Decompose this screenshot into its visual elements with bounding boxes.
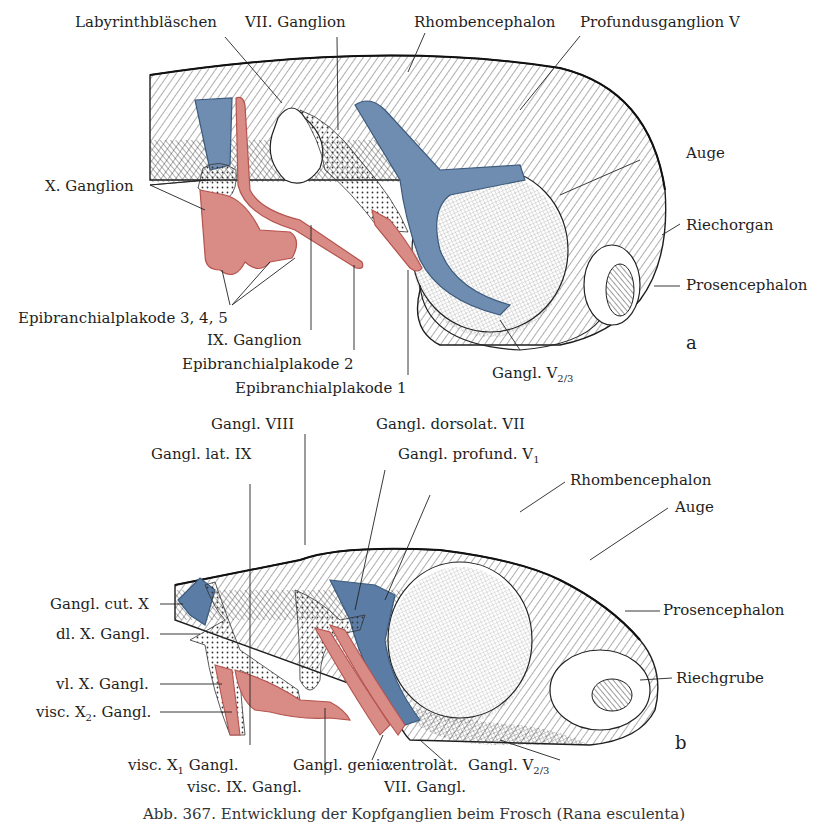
- label-epibranchialplakode-2: Epibranchialplakode 2: [182, 356, 354, 373]
- figure-caption: Abb. 367. Entwicklung der Kopfganglien b…: [0, 805, 828, 823]
- label-profundusganglion: Profundusganglion V: [580, 14, 740, 31]
- label-vii-ganglion: VII. Ganglion: [245, 14, 346, 31]
- label-ventrolat-line2: VII. Gangl.: [384, 779, 466, 796]
- label-vl-x-gangl: vl. X. Gangl.: [56, 676, 149, 693]
- label-dl-x-gangl: dl. X. Gangl.: [56, 626, 150, 643]
- label-gangl-lat-ix: Gangl. lat. IX: [151, 446, 251, 463]
- label-ix-ganglion: IX. Ganglion: [207, 332, 302, 349]
- label-riechorgan: Riechorgan: [686, 217, 773, 234]
- panel-letter-a: a: [686, 332, 697, 353]
- label-gangl-v23-b: Gangl. V2/3: [468, 757, 549, 779]
- panel-letter-b: b: [675, 732, 687, 753]
- label-rhombencephalon-a: Rhombencephalon: [414, 14, 555, 31]
- label-auge-b: Auge: [675, 499, 714, 516]
- label-visc-x1-gangl: visc. X1 Gangl.: [128, 757, 239, 779]
- label-gangl-v23-a: Gangl. V2/3: [492, 365, 573, 387]
- label-x-ganglion: X. Ganglion: [45, 178, 134, 195]
- label-prosencephalon-a: Prosencephalon: [686, 277, 808, 294]
- label-gangl-cut-x: Gangl. cut. X: [50, 596, 149, 613]
- label-gangl-genic: Gangl. genic.: [293, 757, 394, 774]
- label-gangl-profund-v1: Gangl. profund. V1: [398, 446, 540, 468]
- label-gangl-viii: Gangl. VIII: [211, 416, 294, 433]
- label-epibranchialplakode-1: Epibranchialplakode 1: [235, 380, 407, 397]
- panel-b-drawing: [175, 549, 658, 745]
- label-ventrolat-line1: ventrolat.: [384, 757, 458, 774]
- label-gangl-dorsolat-vii: Gangl. dorsolat. VII: [376, 416, 525, 433]
- label-prosencephalon-b: Prosencephalon: [663, 602, 785, 619]
- label-epibranchialplakode-345: Epibranchialplakode 3, 4, 5: [18, 310, 228, 327]
- label-rhombencephalon-b: Rhombencephalon: [570, 472, 711, 489]
- label-visc-x2-gangl: visc. X2. Gangl.: [36, 704, 151, 726]
- label-auge-a: Auge: [686, 145, 725, 162]
- label-labyrinthblaschen: Labyrinthbläschen: [75, 14, 217, 31]
- label-visc-ix-gangl: visc. IX. Gangl.: [187, 779, 302, 796]
- label-riechgrube: Riechgrube: [676, 670, 764, 687]
